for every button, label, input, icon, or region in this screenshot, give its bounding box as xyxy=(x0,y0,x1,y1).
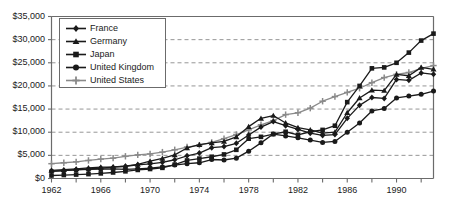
y-tick-label: $15,000 xyxy=(0,104,45,113)
chart-legend: France Germany Japan United Kingdom Unit… xyxy=(59,18,166,88)
legend-item-united-states: United States xyxy=(60,74,165,87)
legend-item-japan: Japan xyxy=(60,48,165,61)
x-tick-label: 1990 xyxy=(377,186,417,195)
x-tick-label: 1982 xyxy=(278,186,318,195)
diamond-marker-icon xyxy=(64,22,88,35)
legend-label-germany: Germany xyxy=(88,35,127,48)
x-tick-label: 1974 xyxy=(179,186,219,195)
x-tick-label: 1970 xyxy=(130,186,170,195)
legend-label-japan: Japan xyxy=(88,48,115,61)
y-tick-label: $10,000 xyxy=(0,127,45,136)
y-tick-label: $5,000 xyxy=(0,150,45,159)
plus-marker-icon xyxy=(64,74,88,87)
y-tick-label: $0 xyxy=(0,174,45,183)
y-tick-label: $30,000 xyxy=(0,35,45,44)
legend-label-united-kingdom: United Kingdom xyxy=(88,61,154,74)
circle-marker-icon xyxy=(64,61,88,74)
x-tick-label: 1978 xyxy=(229,186,269,195)
legend-item-germany: Germany xyxy=(60,35,165,48)
legend-label-france: France xyxy=(88,22,118,35)
y-tick-label: $25,000 xyxy=(0,58,45,67)
x-tick-label: 1966 xyxy=(81,186,121,195)
line-chart-figure: France Germany Japan United Kingdom Unit… xyxy=(0,0,450,218)
legend-item-united-kingdom: United Kingdom xyxy=(60,61,165,74)
legend-item-france: France xyxy=(60,22,165,35)
triangle-marker-icon xyxy=(64,35,88,48)
square-marker-icon xyxy=(64,48,88,61)
y-tick-label: $20,000 xyxy=(0,81,45,90)
x-tick-label: 1986 xyxy=(327,186,367,195)
legend-label-united-states: United States xyxy=(88,74,144,87)
y-tick-label: $35,000 xyxy=(0,12,45,21)
x-tick-label: 1962 xyxy=(32,186,72,195)
